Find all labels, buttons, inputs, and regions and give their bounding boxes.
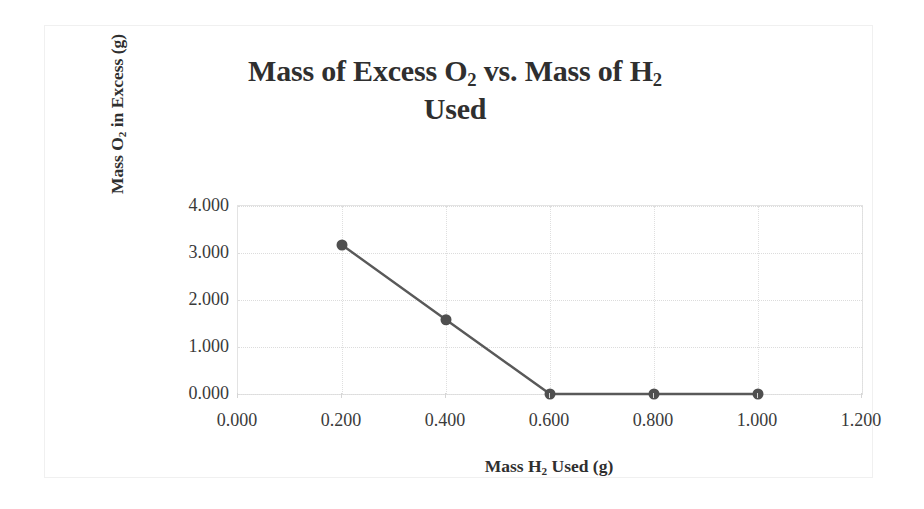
data-point-marker bbox=[337, 240, 348, 251]
data-point-marker bbox=[441, 314, 452, 325]
chart-title-line-2: Used bbox=[424, 92, 487, 125]
x-axis-tick-label: 1.200 bbox=[806, 411, 916, 429]
x-axis-tick-mark bbox=[653, 393, 654, 398]
x-axis-tick-label: 0.800 bbox=[598, 411, 708, 429]
data-point-marker bbox=[753, 389, 764, 400]
x-axis-tick-label: 1.000 bbox=[702, 411, 812, 429]
y-axis-tick-labels: 0.0001.0002.0003.0004.000 bbox=[145, 205, 229, 393]
y-axis-tick-label: 4.000 bbox=[151, 196, 229, 214]
y-axis-tick-label: 2.000 bbox=[151, 290, 229, 308]
series-line-chart bbox=[238, 206, 862, 394]
x-axis-tick-mark bbox=[861, 393, 862, 398]
x-axis-tick-mark bbox=[549, 393, 550, 398]
x-axis-title: Mass H2 Used (g) bbox=[237, 456, 861, 477]
chart-title: Mass of Excess O2 vs. Mass of H2 Used bbox=[105, 52, 805, 129]
x-axis-tick-label: 0.000 bbox=[182, 411, 292, 429]
plot-area bbox=[237, 205, 863, 395]
x-axis-tick-labels: 0.0000.2000.4000.6000.8001.0001.200 bbox=[237, 411, 861, 435]
chart-title-line-1: Mass of Excess O2 vs. Mass of H2 bbox=[248, 54, 662, 87]
x-axis-tick-label: 0.600 bbox=[494, 411, 604, 429]
gridline-vertical bbox=[862, 206, 863, 394]
x-axis-tick-label: 0.400 bbox=[390, 411, 500, 429]
data-point-marker bbox=[545, 389, 556, 400]
x-axis-subscript-h2: 2 bbox=[542, 465, 548, 477]
x-axis-tick-label: 0.200 bbox=[286, 411, 396, 429]
y-axis-tick-label: 0.000 bbox=[151, 384, 229, 402]
x-axis-tick-mark bbox=[445, 393, 446, 398]
title-subscript-h2: 2 bbox=[653, 69, 662, 90]
y-axis-subscript-o2: 2 bbox=[116, 132, 128, 138]
title-subscript-o2: 2 bbox=[467, 69, 476, 90]
y-axis-tick-label: 3.000 bbox=[151, 243, 229, 261]
x-axis-tick-mark bbox=[341, 393, 342, 398]
chart-outer-frame: Mass of Excess O2 vs. Mass of H2 Used Ma… bbox=[44, 25, 873, 478]
y-axis-tick-label: 1.000 bbox=[151, 337, 229, 355]
data-point-marker bbox=[649, 389, 660, 400]
x-axis-tick-mark bbox=[237, 393, 238, 398]
x-axis-tick-mark bbox=[757, 393, 758, 398]
series-line bbox=[342, 245, 758, 394]
y-axis-title: Mass O2 in Excess (g) bbox=[107, 4, 131, 224]
